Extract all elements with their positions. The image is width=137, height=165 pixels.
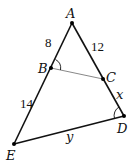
point-b: [49, 66, 53, 70]
length-be: 14: [20, 96, 34, 111]
label-e: E: [5, 148, 16, 163]
point-d: [122, 114, 126, 118]
point-a: [70, 21, 74, 25]
triangle-diagram: A B C D E 8 12 14 x y: [0, 0, 137, 165]
label-c: C: [106, 70, 116, 85]
segment-ad: [72, 23, 124, 116]
label-b: B: [37, 61, 48, 76]
length-cd: x: [116, 87, 124, 102]
label-a: A: [65, 6, 75, 21]
length-ac: 12: [91, 39, 104, 54]
label-d: D: [116, 121, 128, 136]
segment-ae: [14, 23, 72, 144]
point-c: [101, 77, 105, 81]
point-e: [12, 142, 16, 146]
angle-mark-b: [56, 60, 61, 71]
length-ab: 8: [45, 35, 52, 50]
length-ed: y: [65, 129, 74, 144]
segment-bc: [51, 68, 103, 79]
